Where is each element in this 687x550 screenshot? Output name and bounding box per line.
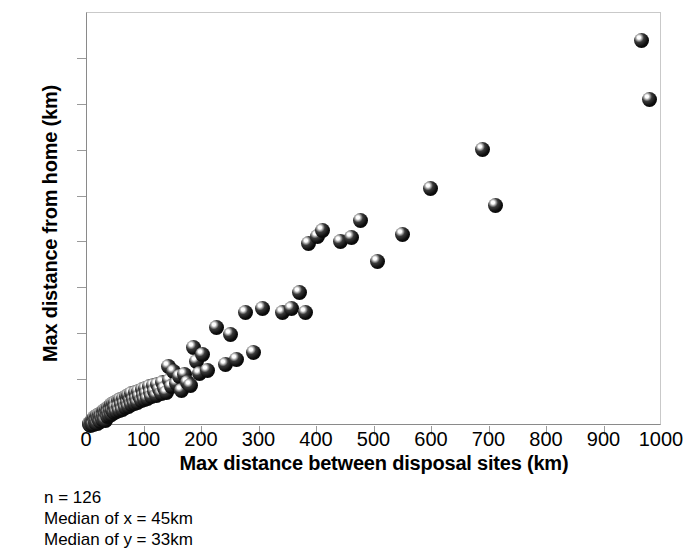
x-axis-tick-label: 1000: [621, 429, 687, 449]
data-point: [475, 142, 490, 157]
data-point: [223, 327, 238, 342]
y-axis-tick: [77, 333, 86, 334]
data-point: [642, 92, 657, 107]
data-point: [315, 223, 330, 238]
data-point: [423, 181, 438, 196]
caption-line: n = 126: [44, 487, 193, 508]
y-axis-title: Max distance from home (km): [39, 14, 62, 434]
chart-caption: n = 126Median of x = 45kmMedian of y = 3…: [44, 487, 193, 550]
x-axis-title: Max distance between disposal sites (km): [86, 452, 662, 475]
data-point: [353, 213, 368, 228]
data-point: [238, 305, 253, 320]
data-point: [209, 320, 224, 335]
data-point: [488, 198, 503, 213]
data-point: [229, 352, 244, 367]
data-point: [246, 345, 261, 360]
data-point: [255, 301, 270, 316]
data-point: [634, 33, 649, 48]
y-axis-tick: [77, 58, 86, 59]
y-axis-tick: [77, 104, 86, 105]
data-point: [395, 227, 410, 242]
y-axis-tick: [77, 241, 86, 242]
caption-line: Median of y = 33km: [44, 529, 193, 550]
data-point: [298, 305, 313, 320]
plot-area: [86, 12, 661, 425]
y-axis-tick: [77, 379, 86, 380]
data-point: [284, 301, 299, 316]
y-axis-tick: [77, 196, 86, 197]
y-axis-tick: [77, 150, 86, 151]
data-point: [200, 363, 215, 378]
data-point: [292, 285, 307, 300]
caption-line: Median of x = 45km: [44, 508, 193, 529]
data-point: [344, 230, 359, 245]
data-point: [195, 347, 210, 362]
data-point: [370, 254, 385, 269]
y-axis-tick: [77, 287, 86, 288]
